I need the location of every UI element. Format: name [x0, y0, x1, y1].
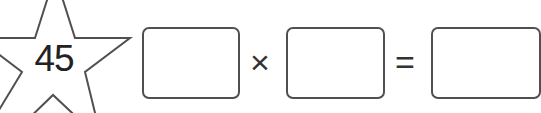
multiply-sign: × — [250, 42, 270, 82]
answer-box-3[interactable] — [431, 27, 541, 99]
equals-sign: = — [395, 42, 415, 82]
answer-box-1[interactable] — [142, 27, 240, 99]
answer-box-2[interactable] — [286, 27, 385, 99]
star-number: 45 — [28, 37, 80, 81]
